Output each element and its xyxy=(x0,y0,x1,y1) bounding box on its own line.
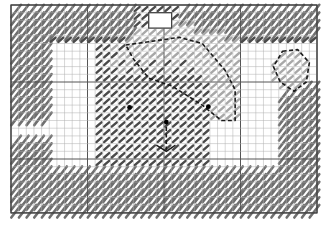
stitch-layer xyxy=(11,5,319,218)
faint-footer-marks xyxy=(0,216,325,227)
stitch-chart xyxy=(0,0,325,227)
chart-grid xyxy=(11,5,317,213)
blank-rectangle xyxy=(149,13,172,28)
